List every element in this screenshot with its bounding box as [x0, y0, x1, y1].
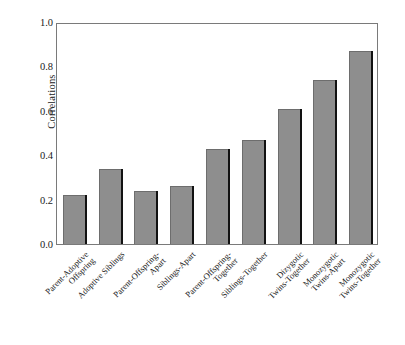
bar — [99, 166, 125, 244]
plot-area — [56, 23, 378, 245]
bar-body — [134, 191, 156, 244]
bar-body — [206, 149, 228, 244]
bar-body — [242, 140, 264, 244]
y-tick-label: 0.0 — [13, 240, 53, 251]
bar-body — [170, 186, 192, 244]
y-tick-label: 0.2 — [13, 195, 53, 206]
bar-body — [63, 195, 85, 244]
bar — [313, 77, 339, 244]
y-tick-label: 0.6 — [13, 107, 53, 118]
correlations-bar-chart: Correlations 0.00.20.40.60.81.0 Parent-A… — [0, 0, 405, 345]
bar-body — [99, 169, 121, 244]
y-tick-label: 1.0 — [13, 18, 53, 29]
y-tick-label: 0.8 — [13, 62, 53, 73]
y-tick-label: 0.4 — [13, 151, 53, 162]
bar-body — [278, 109, 300, 244]
bar — [134, 188, 160, 244]
bar — [349, 48, 375, 244]
bar-body — [349, 51, 371, 244]
bar — [242, 137, 268, 244]
bar — [170, 183, 196, 244]
bar — [278, 106, 304, 244]
bar — [206, 146, 232, 244]
bar — [63, 192, 89, 244]
bar-body — [313, 80, 335, 244]
